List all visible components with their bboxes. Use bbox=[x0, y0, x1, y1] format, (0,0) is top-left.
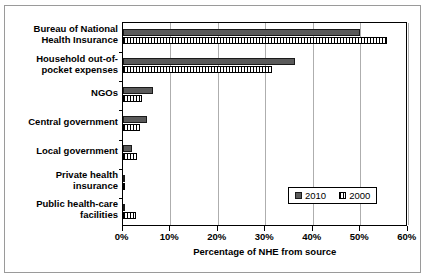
bar-2010 bbox=[123, 116, 147, 123]
x-axis-tick-label: 30% bbox=[244, 231, 284, 242]
legend-item-2000: 2000 bbox=[339, 190, 370, 201]
x-axis-tick-label: 10% bbox=[149, 231, 189, 242]
y-axis-category-label: Private healthinsurance bbox=[11, 169, 118, 191]
y-axis-category-label: Public health-carefacilities bbox=[11, 198, 118, 220]
bar-2000 bbox=[123, 124, 140, 131]
y-axis-category-label: Central government bbox=[11, 116, 118, 127]
bar-2010 bbox=[123, 175, 125, 182]
bar-2000 bbox=[123, 212, 136, 219]
x-axis-tick-label: 0% bbox=[102, 231, 142, 242]
x-axis-tick-labels: 0%10%20%30%40%50%60% bbox=[5, 231, 427, 245]
y-axis-tick bbox=[119, 140, 123, 141]
legend-swatch-2010 bbox=[295, 192, 302, 199]
x-axis-tick-label: 40% bbox=[292, 231, 332, 242]
bar-2010 bbox=[123, 204, 125, 211]
bar-2010 bbox=[123, 145, 133, 152]
y-axis-category-label: Local government bbox=[11, 145, 118, 156]
bar-2000 bbox=[123, 95, 142, 102]
y-axis-tick bbox=[119, 81, 123, 82]
gridline bbox=[265, 23, 266, 225]
y-axis-category-label: Bureau of NationalHealth Insurance bbox=[11, 23, 118, 45]
x-axis-tick-label: 60% bbox=[387, 231, 427, 242]
bar-2000 bbox=[123, 66, 272, 73]
bar-2000 bbox=[123, 153, 137, 160]
y-axis-category-label: NGOs bbox=[11, 87, 118, 98]
y-axis-tick bbox=[119, 198, 123, 199]
bar-2010 bbox=[123, 87, 153, 94]
y-axis-tick bbox=[119, 110, 123, 111]
x-axis-title: Percentage of NHE from source bbox=[122, 246, 408, 257]
bar-2000 bbox=[123, 183, 125, 190]
x-axis-tick-label: 20% bbox=[197, 231, 237, 242]
y-axis-labels: Bureau of NationalHealth InsuranceHouseh… bbox=[11, 22, 118, 226]
legend-label-2010: 2010 bbox=[305, 190, 326, 201]
gridline bbox=[218, 23, 219, 225]
gridline bbox=[408, 23, 409, 225]
gridline bbox=[170, 23, 171, 225]
bar-2000 bbox=[123, 37, 387, 44]
bar-2010 bbox=[123, 58, 295, 65]
legend-label-2000: 2000 bbox=[349, 190, 370, 201]
legend-item-2010: 2010 bbox=[295, 190, 326, 201]
x-axis-tick-label: 50% bbox=[339, 231, 379, 242]
legend-swatch-2000 bbox=[339, 192, 346, 199]
bar-2010 bbox=[123, 29, 361, 36]
y-axis-category-label: Household out-of-pocket expenses bbox=[11, 53, 118, 75]
chart-frame: Bureau of NationalHealth InsuranceHouseh… bbox=[4, 5, 421, 273]
chart-legend: 2010 2000 bbox=[288, 187, 377, 204]
y-axis-tick bbox=[119, 52, 123, 53]
y-axis-tick bbox=[119, 169, 123, 170]
